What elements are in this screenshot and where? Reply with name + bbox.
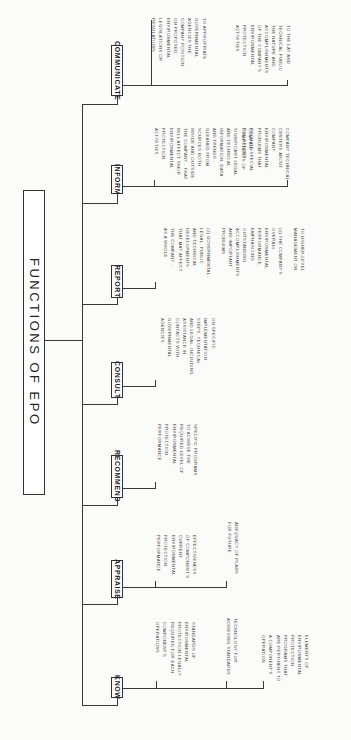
branch-inform [82, 203, 117, 204]
function-label: INFORM [114, 164, 121, 195]
item-text: EFFECTIVENESS OF COMPONENT'S CURRENT ENV… [155, 535, 198, 578]
branch-consult [82, 404, 117, 405]
function-box-consult: CONSULT [111, 362, 123, 398]
branch-appraise [82, 604, 117, 605]
function-label: APPRAISE [114, 559, 121, 600]
item-text: COMPANY COMPONENTS OF SIGNIFICANT LEGAL … [153, 128, 254, 180]
function-label: KNOW [114, 675, 121, 700]
function-label: CONSULT [114, 361, 121, 399]
item-text: ON SPECIFIC IMPLEMENTATION STEPS, TECHNI… [159, 318, 217, 375]
function-label: COMMUNICATE [114, 41, 121, 100]
branch-report [82, 304, 117, 305]
function-label: RECOMMEND [114, 450, 121, 502]
branch-know [82, 705, 117, 706]
function-box-inform: INFORM [111, 165, 123, 194]
title-connector [45, 340, 82, 341]
item-text: TO HIGHER-LEVEL MANAGEMENT ON: (1) THE C… [162, 228, 306, 277]
function-box-recommend: RECOMMEND [111, 455, 123, 498]
title-box: FUNCTIONS OF EPO [23, 190, 45, 495]
item-text: TECHNOLOGY FOR ACHIEVING STANDARDS [225, 618, 239, 675]
item-text: ADEQUACY OF PLANS FOR FUTURE [226, 522, 240, 574]
branch-communicate [82, 104, 117, 105]
function-box-know: KNOW [111, 677, 123, 698]
function-box-appraise: APPRAISE [111, 560, 123, 598]
item-text: COMPANY TECHNICAL CENTERS ABOUT COMPANY … [241, 128, 291, 180]
item-text: ELEMENTS OF ENVIRONMENTAL PROTECTION PRO… [260, 635, 310, 682]
diagram-title: FUNCTIONS OF EPO [27, 258, 42, 427]
item-text: SPECIFIC PROGRAMS TO ACHIEVE THE REQUIRE… [156, 424, 199, 476]
item-text: TO THE LAY AND TECHNICAL PUBLIC THE NATU… [234, 25, 292, 73]
function-label: REPORT [114, 265, 121, 298]
branch-recommend [82, 505, 117, 506]
item-text: TO APPROPRIATE GOVERNMENTAL AGENCIES THE… [150, 18, 208, 66]
item-text: STANDARDS OF ENVIRONMENTAL PROTECTION LE… [154, 622, 197, 676]
function-box-report: REPORT [111, 265, 123, 298]
function-box-communicate: COMMUNICATE [111, 45, 123, 96]
